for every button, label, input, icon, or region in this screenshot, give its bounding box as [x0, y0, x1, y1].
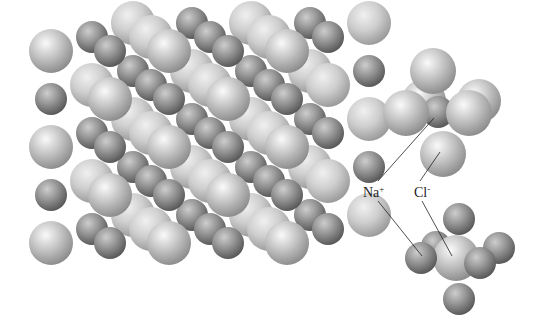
na-ion — [35, 179, 67, 211]
na-charge: + — [379, 184, 384, 194]
na-ion — [94, 131, 126, 163]
cl-ion — [265, 221, 309, 265]
cl-ion — [206, 77, 250, 121]
cl-ion — [147, 29, 191, 73]
na-ion — [353, 55, 385, 87]
cl-label-text: Cl — [414, 185, 427, 200]
cl-coordination-cluster — [405, 203, 515, 315]
na-ion — [312, 21, 344, 53]
na-ion — [94, 227, 126, 259]
na-ion — [153, 83, 185, 115]
cl-ion — [88, 173, 132, 217]
cl-ion — [147, 221, 191, 265]
cl-ion — [420, 131, 466, 177]
nacl-crystal-diagram: Na+ Cl- — [0, 0, 540, 334]
cl-ion — [265, 125, 309, 169]
cl-ion — [446, 90, 492, 136]
cl-ion — [29, 29, 73, 73]
cl-ion — [265, 29, 309, 73]
cl-ion — [410, 48, 456, 94]
na-ion — [405, 242, 437, 274]
cl-ion — [29, 221, 73, 265]
na-ion — [464, 247, 496, 279]
cl-charge: - — [427, 184, 430, 194]
cl-ion — [306, 63, 350, 107]
na-ion-label: Na+ — [363, 185, 384, 200]
na-ion — [35, 83, 67, 115]
cl-ion — [306, 159, 350, 203]
cl-ion — [347, 1, 391, 45]
na-label-text: Na — [363, 185, 379, 200]
na-ion — [94, 35, 126, 67]
nacl-lattice — [29, 1, 391, 265]
cl-ion — [29, 125, 73, 169]
na-ion — [212, 35, 244, 67]
na-ion — [271, 179, 303, 211]
na-ion — [271, 83, 303, 115]
na-ion — [153, 179, 185, 211]
cl-ion — [88, 77, 132, 121]
cl-ion — [383, 90, 429, 136]
diagram-canvas — [0, 0, 540, 334]
na-ion — [312, 213, 344, 245]
na-coordination-cluster — [383, 48, 501, 177]
cl-ion-label: Cl- — [414, 185, 430, 200]
cl-ion — [206, 173, 250, 217]
na-ion — [443, 283, 475, 315]
na-ion — [312, 117, 344, 149]
na-ion — [212, 131, 244, 163]
na-ion — [443, 203, 475, 235]
cl-ion — [147, 125, 191, 169]
na-ion — [212, 227, 244, 259]
